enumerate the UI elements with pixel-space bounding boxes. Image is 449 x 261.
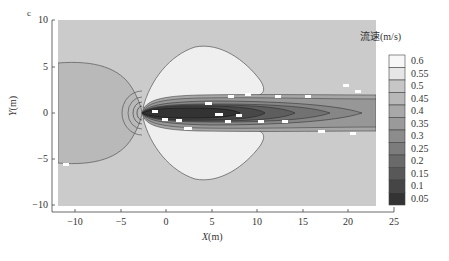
y-tick-label: 10 [18,14,48,25]
y-tick-label: −5 [18,153,48,164]
colorbar-label: 0.6 [411,55,424,67]
colorbar-label: 0.2 [411,155,424,167]
x-tick-label: 10 [242,216,272,227]
x-ticks [75,207,394,212]
colorbar-label: 0.3 [411,130,424,142]
colorbar-label: 0.5 [411,80,424,92]
x-tick-label: 0 [151,216,181,227]
x-tick-label: −10 [60,216,90,227]
colorbar-title: 流速(m/s) [360,28,401,43]
colorbar-label: 0.45 [411,93,429,105]
y-axis-title: Y(m) [7,96,18,116]
y-tick-label: 0 [18,107,48,118]
x-tick-label: 25 [379,216,409,227]
colorbar-label: 0.05 [411,193,429,205]
colorbar-label: 0.15 [411,168,429,180]
colorbar-label: 0.4 [411,105,424,117]
x-tick-label: 20 [333,216,363,227]
x-tick-label: −5 [106,216,136,227]
colorbar-label: 0.35 [411,118,429,130]
y-tick-label: 5 [18,61,48,72]
x-axis-title: X(m) [202,231,223,242]
colorbar [389,55,405,205]
y-tick-label: −10 [18,199,48,210]
x-tick-label: 15 [288,216,318,227]
x-tick-label: 5 [197,216,227,227]
colorbar-label: 0.55 [411,68,429,80]
colorbar-label: 0.1 [411,180,424,192]
colorbar-label: 0.25 [411,143,429,155]
y-ticks [52,20,55,205]
contour-field [58,20,376,206]
